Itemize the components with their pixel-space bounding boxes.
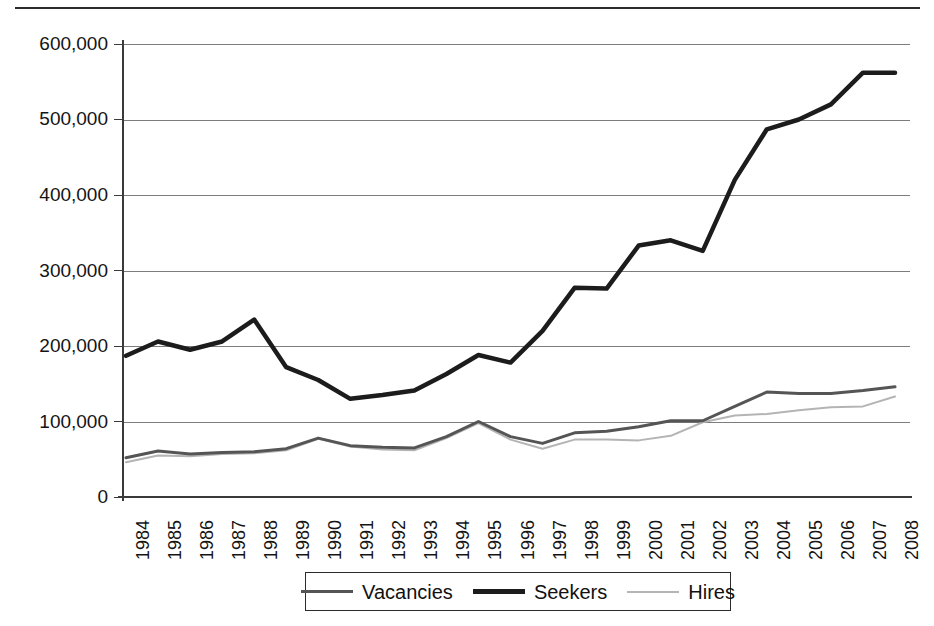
x-tick-label: 1986	[178, 500, 202, 564]
x-tick-label: 2001	[659, 500, 683, 564]
x-tick-label: 1991	[338, 500, 362, 564]
legend-item-vacancies[interactable]: Vacancies	[301, 582, 453, 602]
x-tick-label: 1987	[210, 500, 234, 564]
chart-page: 600,000 500,000 400,000 300,000 200,000 …	[0, 0, 934, 626]
x-tick-label: 1992	[370, 500, 394, 564]
x-tick-label: 1989	[274, 500, 298, 564]
series-line-seekers	[126, 73, 895, 399]
x-tick-label: 1996	[499, 500, 523, 564]
x-tick-label: 2002	[691, 500, 715, 564]
x-tick-label: 1984	[114, 500, 138, 564]
x-tick-label: 1999	[595, 500, 619, 564]
legend-label-hires: Hires	[688, 582, 735, 602]
line-chart: 600,000 500,000 400,000 300,000 200,000 …	[0, 0, 934, 626]
x-tick-label: 1995	[466, 500, 490, 564]
x-axis-labels: 1984198519861987198819891990199119921993…	[122, 500, 910, 570]
legend-item-hires[interactable]: Hires	[627, 582, 735, 602]
x-tick-label: 2008	[883, 500, 907, 564]
legend-label-seekers: Seekers	[534, 582, 607, 602]
x-tick-label: 1985	[146, 500, 170, 564]
x-tick-label: 2005	[787, 500, 811, 564]
x-tick-label: 1994	[434, 500, 458, 564]
x-tick-label: 1997	[531, 500, 555, 564]
series-line-vacancies	[126, 387, 895, 458]
x-tick-label: 2004	[755, 500, 779, 564]
x-tick-label: 1990	[306, 500, 330, 564]
x-tick-label: 2003	[723, 500, 747, 564]
x-tick-label: 2007	[851, 500, 875, 564]
x-tick-label: 2000	[627, 500, 651, 564]
x-tick-label: 1993	[402, 500, 426, 564]
line-swatch-vacancies-icon	[301, 590, 353, 593]
x-tick-label: 2006	[819, 500, 843, 564]
x-tick-label: 1988	[242, 500, 266, 564]
legend-item-seekers[interactable]: Seekers	[473, 582, 607, 602]
chart-legend: Vacancies Seekers Hires	[305, 572, 731, 611]
x-tick-label: 1998	[563, 500, 587, 564]
line-swatch-hires-icon	[627, 591, 679, 593]
x-tick-label-text: 2008	[902, 520, 923, 560]
line-swatch-seekers-icon	[473, 589, 525, 594]
legend-label-vacancies: Vacancies	[362, 582, 453, 602]
